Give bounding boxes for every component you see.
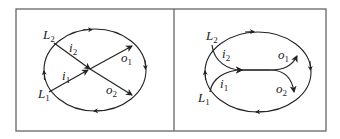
label-L2: L2	[42, 27, 55, 44]
loop-arrow-right	[145, 60, 146, 69]
label-i2: i2	[222, 46, 230, 63]
loop-arrow-bottom	[256, 112, 265, 113]
label-o2: o2	[276, 81, 287, 98]
label-L2: L2	[205, 28, 218, 45]
loop-arrow-top	[83, 30, 92, 31]
label-o1: o1	[121, 50, 132, 67]
label-o1: o1	[278, 47, 289, 64]
label-i1: i1	[62, 68, 70, 85]
right-loop	[205, 32, 311, 112]
loop-arrow-left	[44, 71, 45, 80]
left-panel: L2 i2 i1 L1 o1 o2	[37, 27, 146, 111]
label-L1: L1	[197, 90, 210, 107]
label-i1: i1	[220, 76, 228, 93]
loop-arrow-bottom	[94, 111, 103, 112]
label-i2: i2	[69, 40, 77, 57]
label-L1: L1	[37, 86, 50, 103]
loop-arrow-left	[205, 71, 206, 80]
left-loop	[44, 29, 146, 111]
figure-diagram: L2 i2 i1 L1 o1 o2 L2 i2 i1 L1 o1 o2	[0, 0, 340, 139]
right-panel: L2 i2 i1 L1 o1 o2	[197, 28, 311, 112]
loop-arrow-right	[310, 61, 311, 70]
loop-arrow-top	[245, 32, 254, 33]
